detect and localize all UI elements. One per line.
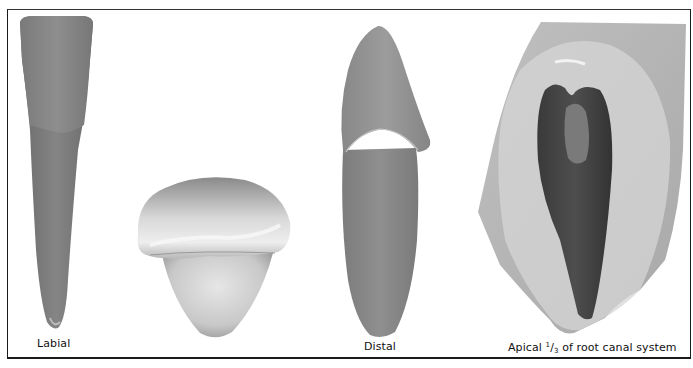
caption-apical-suffix: of root canal system	[559, 341, 677, 354]
labial-tooth-image	[20, 16, 93, 328]
caption-labial: Labial	[37, 337, 70, 350]
caption-distal: Distal	[364, 340, 396, 353]
figure-artwork	[0, 0, 693, 368]
caption-apical: Apical 1/3 of root canal system	[508, 341, 677, 355]
root-canal-section-image	[478, 22, 686, 333]
distal-tooth-image	[341, 26, 430, 337]
incisal-tooth-image	[138, 177, 291, 337]
caption-apical-prefix: Apical	[508, 341, 546, 354]
